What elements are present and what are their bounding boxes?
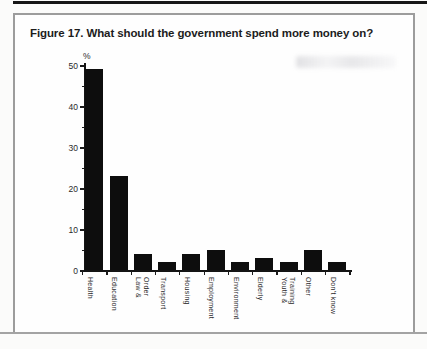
y-major-tick: [80, 147, 84, 148]
y-minor-tick: [82, 86, 85, 87]
x-tick: [204, 271, 205, 275]
bar-health: [85, 69, 103, 270]
x-axis-label-education: Education: [110, 277, 118, 335]
y-major-tick: [80, 188, 84, 189]
y-major-tick: [80, 106, 84, 107]
page-bottom-rule: [0, 332, 427, 334]
y-tick-label: 10: [56, 225, 78, 236]
x-axis-label-other: Other: [304, 277, 312, 335]
bar-environment: [231, 262, 249, 270]
x-axis-label-law-order: Law & Order: [134, 277, 150, 335]
y-axis-unit-label: %: [83, 51, 91, 61]
x-tick: [301, 271, 302, 275]
bar-transport: [158, 262, 176, 270]
x-axis-label-employment: Employment: [207, 277, 215, 335]
x-axis-label-housing: Housing: [183, 277, 191, 335]
bar-employment: [207, 250, 225, 271]
y-major-tick: [80, 229, 84, 230]
x-tick: [252, 271, 253, 275]
y-minor-tick: [82, 168, 85, 169]
x-tick: [349, 271, 350, 275]
y-tick-label: 40: [56, 102, 78, 113]
x-tick: [106, 271, 107, 275]
x-tick: [228, 271, 229, 275]
x-axis-label-elderly: Elderly: [256, 277, 264, 335]
bar-youth-training: [280, 262, 298, 270]
y-minor-tick: [82, 209, 85, 210]
x-tick: [131, 271, 132, 275]
scanned-page: Figure 17. What should the government sp…: [0, 0, 427, 349]
x-axis-label-transport: Transport: [159, 277, 167, 335]
y-tick-label: 30: [56, 143, 78, 154]
bar-other: [304, 250, 322, 271]
y-minor-tick: [82, 250, 85, 251]
x-axis-label-youth-training: Youth & Training: [280, 277, 296, 335]
x-tick: [276, 271, 277, 275]
bar-law-order: [134, 254, 152, 270]
y-major-tick: [80, 65, 84, 66]
x-tick: [155, 271, 156, 275]
bar-education: [110, 176, 128, 270]
x-tick: [325, 271, 326, 275]
x-axis-line: [84, 270, 352, 272]
y-tick-label: 20: [56, 184, 78, 195]
plot-area: % 01020304050HealthEducationLaw & OrderT…: [0, 0, 427, 349]
x-tick: [82, 271, 83, 275]
bar-housing: [182, 254, 200, 270]
y-minor-tick: [82, 127, 85, 128]
bar-elderly: [255, 258, 273, 270]
bar-don-t-know: [328, 262, 346, 270]
y-tick-label: 0: [56, 266, 78, 277]
x-axis-label-environment: Environment: [232, 277, 240, 335]
x-axis-label-don-t-know: Don't know: [329, 277, 337, 335]
y-tick-label: 50: [56, 61, 78, 72]
x-tick: [179, 271, 180, 275]
x-axis-label-health: Health: [86, 277, 94, 335]
